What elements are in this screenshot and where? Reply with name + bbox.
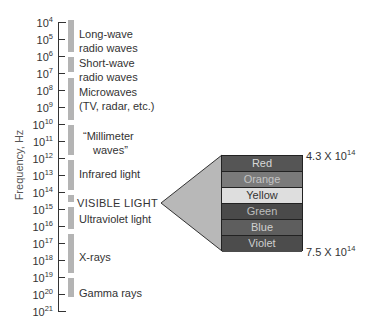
- frequency-label-red-end: 4.3 X 1014: [306, 148, 355, 162]
- color-band-yellow: Yellow: [222, 188, 302, 204]
- frequency-label-violet-end: 7.5 X 1014: [306, 244, 355, 258]
- color-band-violet: Violet: [222, 236, 302, 252]
- color-band-green: Green: [222, 204, 302, 220]
- color-band-orange: Orange: [222, 172, 302, 188]
- color-band-blue: Blue: [222, 220, 302, 236]
- visible-spectrum-box: Red Orange Yellow Green Blue Violet: [221, 155, 303, 251]
- visible-light-expansion-wedge: [0, 0, 375, 332]
- color-band-red: Red: [222, 156, 302, 172]
